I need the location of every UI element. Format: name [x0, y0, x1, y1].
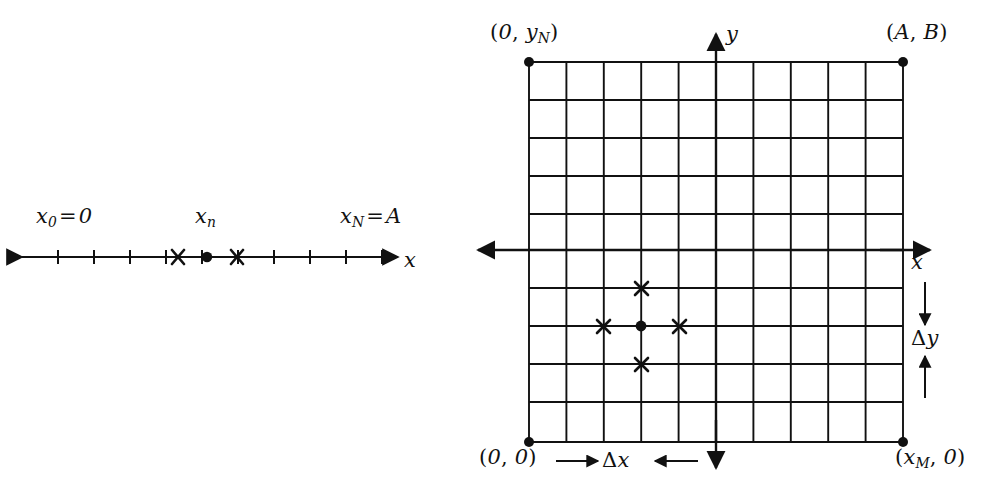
figure-canvas: x0=0 xn xN=A x (0, yN) (A, B) (0, 0) (xM… [0, 0, 989, 492]
label-corner-bottom-right: (xM, 0) [895, 447, 965, 471]
label-xn: xn [195, 206, 216, 230]
label-number-line-x-axis: x [404, 250, 416, 271]
figure-vector-layer [0, 0, 989, 492]
grid-group [478, 34, 930, 468]
corner-dot-top-right [898, 57, 908, 67]
number-line-group [22, 250, 398, 264]
grid-stencil-center-dot [636, 321, 647, 332]
label-xN-equals-A: xN=A [340, 206, 401, 230]
corner-dot-top-left [524, 57, 534, 67]
label-corner-bottom-left: (0, 0) [479, 447, 537, 468]
label-grid-x-axis: x [911, 252, 923, 273]
label-delta-y: Δy [911, 328, 938, 349]
label-grid-y-axis: y [726, 24, 738, 45]
label-corner-top-right: (A, B) [886, 22, 948, 43]
label-x0-equals-0: x0=0 [36, 206, 92, 230]
label-corner-top-left: (0, yN) [490, 22, 558, 46]
label-delta-x: Δx [602, 450, 629, 471]
stencil-center-dot [202, 252, 212, 262]
